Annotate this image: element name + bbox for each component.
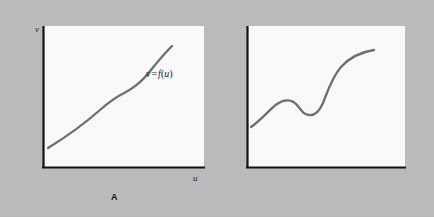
plot-area-b xyxy=(217,0,434,217)
y-axis-label-a: v xyxy=(35,25,39,34)
plot-background-a xyxy=(43,26,204,167)
x-axis-label-a: u xyxy=(193,174,198,183)
chart-panel-b: v u v=f(u) B xyxy=(217,0,434,217)
curve-annotation-a: v=f(u) xyxy=(146,69,173,79)
curve-annotation-a-close: ) xyxy=(169,68,172,79)
figure-canvas: v u v=f(u) A v u v=f(u) B xyxy=(0,0,434,217)
panel-letter-a: A xyxy=(111,193,118,202)
plot-area-a xyxy=(0,0,217,217)
curve-annotation-a-equals: = xyxy=(150,68,158,79)
chart-panel-a: v u v=f(u) A xyxy=(0,0,217,217)
